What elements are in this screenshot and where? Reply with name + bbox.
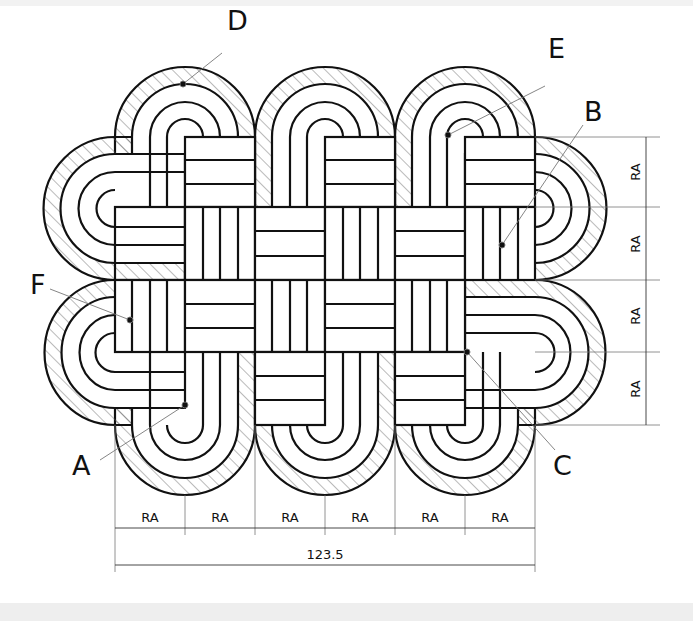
dim-ra-v2: RA (628, 235, 643, 253)
callout-d: D (227, 5, 248, 36)
dim-ra-v4: RA (628, 380, 643, 398)
callout-b: B (584, 96, 603, 127)
dim-ra-h4: RA (351, 510, 369, 525)
callout-a: A (72, 450, 91, 481)
dim-overall-width: 123.5 (306, 547, 343, 562)
callout-f: F (30, 269, 46, 300)
dim-ra-h1: RA (141, 510, 159, 525)
dim-ra-h6: RA (491, 510, 509, 525)
dim-ra-h3: RA (281, 510, 299, 525)
callout-c: C (553, 450, 572, 481)
dim-ra-h5: RA (421, 510, 439, 525)
callout-e: E (548, 33, 565, 64)
dim-ra-v1: RA (628, 163, 643, 181)
knot-drawing: D E B F A C RA RA RA RA RA RA 123.5 RA R… (0, 0, 693, 621)
dim-ra-h2: RA (211, 510, 229, 525)
dim-ra-v3: RA (628, 307, 643, 325)
